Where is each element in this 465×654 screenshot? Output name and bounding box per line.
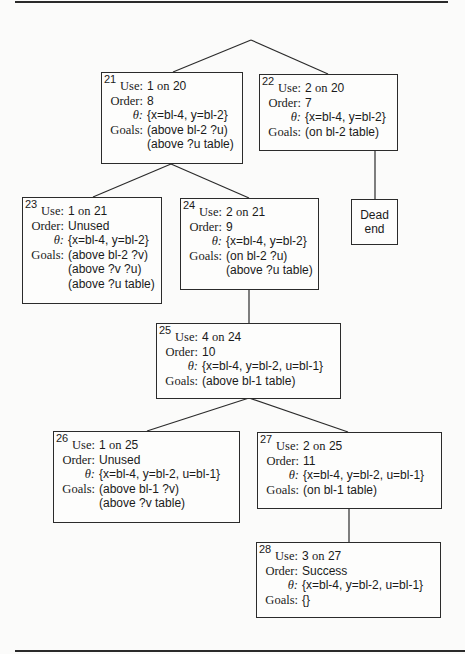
goals-row: Goals:(on bl-2 ?u) xyxy=(181,249,313,264)
node-25: 25 Use:4 on 24 Order:10 θ:{x=bl-4, y=bl-… xyxy=(156,323,341,399)
use-row: Use:2 on 20 xyxy=(260,81,386,96)
theta-row: θ:{x=bl-4, y=bl-2, u=bl-1} xyxy=(157,359,323,374)
edge-25-27 xyxy=(249,398,348,432)
use-row: Use:1 on 21 xyxy=(23,204,155,219)
goals-row: Goals:(above bl-1 table) xyxy=(157,374,323,389)
goals-row-cont: (above ?v ?u) xyxy=(23,262,155,277)
node-26: 26 Use:1 on 25 Order:Unused θ:{x=bl-4, y… xyxy=(53,431,240,523)
theta-row: θ:{x=bl-4, y=bl-2, u=bl-1} xyxy=(54,467,220,482)
goals-row-cont: (above ?u table) xyxy=(181,263,313,278)
node-22: 22 Use:2 on 20 Order:7 θ:{x=bl-4, y=bl-2… xyxy=(259,74,398,151)
theta-row: θ:{x=bl-4, y=bl-2} xyxy=(181,234,313,249)
use-row: Use:2 on 21 xyxy=(181,205,313,220)
use-row: Use:1 on 25 xyxy=(54,438,220,453)
order-row: Order:11 xyxy=(258,454,424,469)
order-row: Order:Success xyxy=(257,564,423,579)
theta-row: θ:{x=bl-4, y=bl-2, u=bl-1} xyxy=(257,578,423,593)
theta-row: θ:{x=bl-4, y=bl-2} xyxy=(23,233,155,248)
node-24: 24 Use:2 on 21 Order:9 θ:{x=bl-4, y=bl-2… xyxy=(180,198,319,290)
order-row: Order:9 xyxy=(181,220,313,235)
goals-row-cont: (above ?v table) xyxy=(54,496,220,511)
theta-row: θ:{x=bl-4, y=bl-2} xyxy=(260,110,386,125)
order-row: Order:7 xyxy=(260,96,386,111)
order-row: Order:8 xyxy=(102,94,234,109)
goals-row-cont: (above ?u table) xyxy=(23,277,155,292)
goals-row: Goals:(above bl-1 ?v) xyxy=(54,482,220,497)
node-27: 27 Use:2 on 25 Order:11 θ:{x=bl-4, y=bl-… xyxy=(257,432,442,509)
edge-25-26 xyxy=(147,398,249,431)
goals-row-cont: (above ?u table) xyxy=(102,137,234,152)
theta-row: θ:{x=bl-4, y=bl-2} xyxy=(102,108,234,123)
dead-end-line1: Dead xyxy=(360,208,389,222)
node-28: 28 Use:3 on 27 Order:Success θ:{x=bl-4, … xyxy=(256,542,441,618)
node-23: 23 Use:1 on 21 Order:Unused θ:{x=bl-4, y… xyxy=(22,197,162,304)
edge-root-22 xyxy=(251,40,328,74)
use-row: Use:3 on 27 xyxy=(257,549,423,564)
dead-end-box: Dead end xyxy=(351,199,398,245)
theta-row: θ:{x=bl-4, y=bl-2, u=bl-1} xyxy=(258,468,424,483)
goals-row: Goals:(on bl-1 table) xyxy=(258,483,424,498)
edge-21-23 xyxy=(93,164,171,197)
edge-21-24 xyxy=(171,164,249,198)
goals-row: Goals:{} xyxy=(257,593,423,608)
goals-row: Goals:(on bl-2 table) xyxy=(260,125,386,140)
node-21: 21 Use:1 on 20 Order:8 θ:{x=bl-4, y=bl-2… xyxy=(101,72,243,164)
order-row: Order:Unused xyxy=(23,219,155,234)
dead-end-line2: end xyxy=(364,222,384,236)
goals-row: Goals:(above bl-2 ?u) xyxy=(102,123,234,138)
order-row: Order:Unused xyxy=(54,453,220,468)
goals-row: Goals:(above bl-2 ?v) xyxy=(23,248,155,263)
use-row: Use:2 on 25 xyxy=(258,439,424,454)
top-rule xyxy=(15,1,448,3)
order-row: Order:10 xyxy=(157,345,323,360)
bottom-rule xyxy=(15,650,465,652)
use-row: Use:4 on 24 xyxy=(157,330,323,345)
use-row: Use:1 on 20 xyxy=(102,79,234,94)
edge-root-21 xyxy=(173,40,251,72)
